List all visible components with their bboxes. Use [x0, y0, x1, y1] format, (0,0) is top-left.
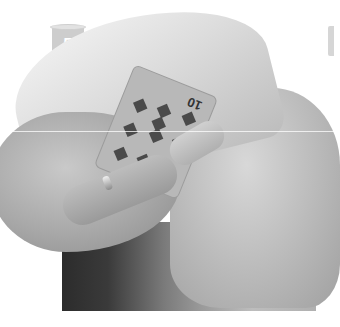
diamond-icon [133, 98, 147, 112]
card-rank: 10 [185, 94, 204, 113]
step-badge-lid [50, 24, 86, 30]
diamond-icon [157, 104, 171, 118]
diamond-icon [114, 147, 128, 161]
diamond-icon [123, 123, 137, 137]
diamond-icon [152, 117, 166, 131]
scan-line [0, 131, 334, 132]
diamond-icon [182, 112, 196, 126]
next-step-badge-edge [328, 26, 334, 56]
